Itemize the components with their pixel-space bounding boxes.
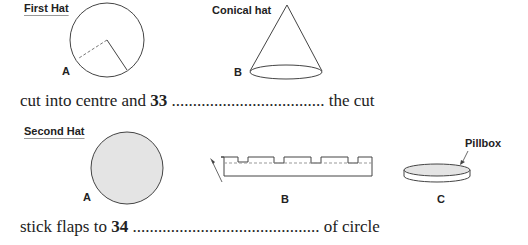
conical-hat-title: Conical hat [212, 4, 271, 16]
second-hat-circle [91, 132, 163, 204]
pillbox-label-c: C [437, 193, 445, 205]
sentence-34-before: stick flaps to [20, 217, 111, 236]
diagram-canvas [0, 0, 528, 245]
sentence-34: stick flaps to 34 ......................… [20, 217, 380, 237]
first-hat-label-a: A [62, 65, 70, 77]
sentence-33: cut into centre and 33 .................… [20, 91, 375, 111]
first-hat-title: First Hat [24, 2, 69, 14]
sentence-34-after: of circle [319, 217, 379, 236]
answer-blank-33[interactable]: .................................... [167, 91, 324, 110]
strip-label-b: B [281, 193, 289, 205]
second-hat-label-a: A [83, 191, 91, 203]
conical-hat [250, 5, 322, 79]
sentence-33-after: the cut [325, 91, 375, 110]
second-hat-title: Second Hat [24, 125, 85, 137]
flapped-strip [210, 157, 372, 182]
question-number-34: 34 [111, 217, 128, 236]
first-hat-circle [70, 3, 144, 77]
pillbox-title: Pillbox [465, 137, 501, 149]
conical-hat-label-b: B [234, 66, 242, 78]
sentence-33-before: cut into centre and [20, 91, 150, 110]
answer-blank-34[interactable]: ........................................… [128, 217, 319, 236]
pillbox [404, 151, 470, 182]
question-number-33: 33 [150, 91, 167, 110]
